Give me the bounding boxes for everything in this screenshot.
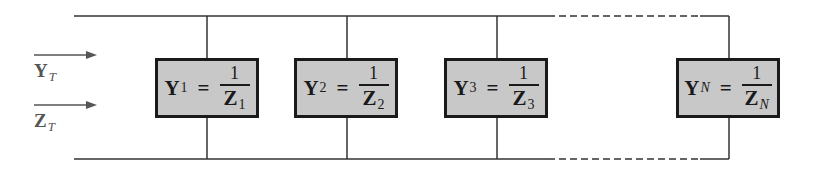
- input-label-zt: ZT: [34, 110, 55, 135]
- branch-box-1: Y1= 1Z1: [155, 58, 259, 118]
- branch-box-n: YN= 1ZN: [676, 58, 780, 118]
- input-label-yt: YT: [34, 60, 56, 85]
- arrow-icon: [34, 51, 97, 59]
- arrow-icon: [34, 101, 97, 109]
- branch-box-3: Y3= 1Z3: [444, 58, 548, 118]
- branch-box-2: Y2= 1Z2: [294, 58, 398, 118]
